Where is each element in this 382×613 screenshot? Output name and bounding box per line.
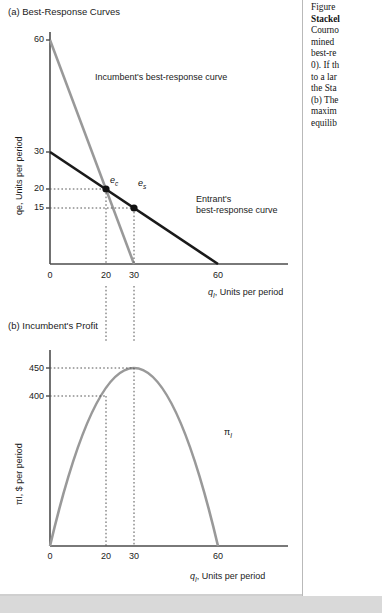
panel-b-ytick-450: 450 <box>8 363 44 373</box>
caption-divider <box>302 0 303 596</box>
caption-line-7: the Sta <box>311 83 382 95</box>
caption-line-4: best-re <box>311 48 382 60</box>
entrant-curve-label: Entrant's best-response curve <box>196 194 278 216</box>
panel-b-xtick-30: 30 <box>122 551 146 561</box>
caption-line-1: Stackel <box>311 14 382 26</box>
panel-a-xtick-30: 30 <box>122 270 146 280</box>
point-ec-marker <box>102 185 109 192</box>
panel-a-xtick-20: 20 <box>94 270 118 280</box>
panel-a-ytick-60: 60 <box>14 34 44 44</box>
panel-b-plot <box>0 340 302 570</box>
panel-link-guides <box>0 286 302 342</box>
panel-a-ytick-30: 30 <box>14 146 44 156</box>
panel-a-xtick-60: 60 <box>206 270 230 280</box>
panel-b-xtick-0: 0 <box>38 551 62 561</box>
point-ec-label: ec <box>110 175 118 187</box>
caption-line-6: to a lar <box>311 72 382 84</box>
panel-a-plot <box>0 18 302 286</box>
incumbent-curve-label: Incumbent's best-response curve <box>95 72 227 83</box>
point-es-label: es <box>138 178 146 190</box>
caption-line-8: (b) The <box>311 95 382 107</box>
caption-line-0: Figure <box>311 2 382 14</box>
panel-a-title: (a) Best-Response Curves <box>8 6 120 17</box>
entrant-curve-label-line1: Entrant's <box>196 194 231 204</box>
figure-caption: Figure Stackel Courno mined best-re 0). … <box>311 2 382 130</box>
panel-b-xtick-60: 60 <box>206 551 230 561</box>
panel-b-ytick-400: 400 <box>8 391 44 401</box>
point-es-marker <box>130 204 137 211</box>
figure-root: (a) Best-Response Curves qe, Units per p… <box>0 0 382 613</box>
profit-curve-label: πI <box>224 427 232 439</box>
panel-a-xtick-0: 0 <box>38 270 62 280</box>
caption-line-10: equilib <box>311 118 382 130</box>
panel-b-guides <box>50 368 134 546</box>
caption-line-5: 0). If th <box>311 60 382 72</box>
panel-a-ytick-15: 15 <box>14 202 44 212</box>
panel-b-x-axis-label: qI, Units per period <box>190 571 265 583</box>
page-bottom-band <box>0 596 382 613</box>
caption-line-3: mined <box>311 37 382 49</box>
caption-line-2: Courno <box>311 25 382 37</box>
panel-a-ytick-20: 20 <box>14 183 44 193</box>
page-bottom-shadow <box>0 594 302 596</box>
panel-b-xtick-20: 20 <box>94 551 118 561</box>
entrant-curve-label-line2: best-response curve <box>196 205 278 215</box>
caption-line-9: maxim <box>311 106 382 118</box>
